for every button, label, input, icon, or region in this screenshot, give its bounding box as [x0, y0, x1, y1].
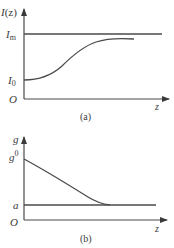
x-axis-label-a: z: [154, 101, 159, 112]
x-axis-label-b: z: [154, 223, 159, 234]
caption-b: (b): [80, 233, 92, 245]
panel-a: I(z) Im I0 O z (a): [0, 6, 169, 123]
a-label: a: [13, 199, 19, 211]
y-axis-label-a: I(z): [0, 6, 17, 19]
intensity-curve: [24, 38, 134, 80]
g0-label: g0: [9, 149, 19, 163]
origin-label-b: O: [10, 216, 18, 228]
im-label: Im: [5, 28, 17, 42]
y-axis-label-b: g: [13, 133, 19, 145]
gain-curve: [24, 159, 110, 205]
origin-label-a: O: [9, 93, 17, 105]
figure: I(z) Im I0 O z (a) g g0 a O z (b): [0, 0, 174, 248]
panel-b: g g0 a O z (b): [9, 133, 167, 245]
i0-label: I0: [7, 74, 16, 88]
caption-a: (a): [80, 111, 91, 123]
